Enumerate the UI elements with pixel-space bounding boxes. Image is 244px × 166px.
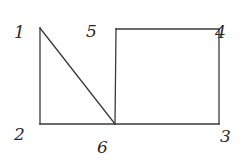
node-label-5: 5: [86, 21, 97, 41]
node-label-1: 1: [14, 22, 25, 42]
node-label-6: 6: [97, 137, 108, 157]
labels-layer: 123456: [13, 21, 231, 157]
graph-diagram: 123456: [0, 0, 244, 166]
edge-5-6: [115, 29, 116, 124]
diagram-canvas: 123456: [0, 0, 244, 166]
edges-layer: [40, 28, 219, 124]
node-label-3: 3: [220, 126, 231, 146]
edge-1-6: [40, 28, 115, 124]
node-label-4: 4: [214, 22, 226, 42]
node-label-2: 2: [13, 124, 25, 144]
